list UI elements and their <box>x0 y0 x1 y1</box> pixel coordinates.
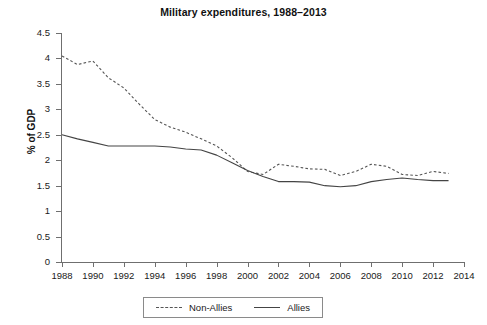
y-tick-mark <box>56 135 61 136</box>
y-tick-label: 1.5 <box>14 180 50 191</box>
y-tick-mark <box>56 33 61 34</box>
x-tick-mark <box>371 262 372 267</box>
y-tick-mark <box>56 237 61 238</box>
y-tick-label: 4.5 <box>14 27 50 38</box>
y-tick-label: 1 <box>14 205 50 216</box>
legend-swatch-dashed-icon <box>156 307 182 308</box>
y-tick-label: 4 <box>14 52 50 63</box>
x-tick-mark <box>186 262 187 267</box>
y-tick-label: 3.5 <box>14 78 50 89</box>
x-tick-mark <box>217 262 218 267</box>
y-tick-label: 2.5 <box>14 129 50 140</box>
y-tick-mark <box>56 186 61 187</box>
x-tick-mark <box>93 262 94 267</box>
y-tick-label: 0.5 <box>14 231 50 242</box>
y-tick-mark <box>56 109 61 110</box>
y-tick-label: 0 <box>14 256 50 267</box>
y-tick-mark <box>56 262 61 263</box>
series-line-allies <box>62 135 449 187</box>
x-tick-mark <box>402 262 403 267</box>
x-tick-mark <box>309 262 310 267</box>
x-tick-mark <box>124 262 125 267</box>
y-tick-mark <box>56 84 61 85</box>
legend-label-non-allies: Non-Allies <box>189 302 232 313</box>
x-tick-mark <box>340 262 341 267</box>
x-axis-line <box>61 262 464 263</box>
series-line-non-allies <box>62 56 449 176</box>
chart-legend: Non-Allies Allies <box>143 297 323 318</box>
legend-item-allies[interactable]: Allies <box>254 302 310 313</box>
y-tick-label: 3 <box>14 103 50 114</box>
chart-container: Military expenditures, 1988–2013 % of GD… <box>0 0 487 325</box>
y-tick-label: 2 <box>14 154 50 165</box>
x-tick-mark <box>278 262 279 267</box>
legend-item-non-allies[interactable]: Non-Allies <box>156 302 232 313</box>
y-tick-mark <box>56 58 61 59</box>
legend-swatch-solid-icon <box>254 307 280 308</box>
x-tick-mark <box>464 262 465 267</box>
x-tick-mark <box>248 262 249 267</box>
y-tick-mark <box>56 211 61 212</box>
plot-area <box>62 33 464 262</box>
chart-title: Military expenditures, 1988–2013 <box>0 6 487 18</box>
y-tick-mark <box>56 160 61 161</box>
x-tick-mark <box>433 262 434 267</box>
x-tick-mark <box>62 262 63 267</box>
x-tick-label: 2014 <box>444 270 484 281</box>
legend-label-allies: Allies <box>287 302 310 313</box>
x-tick-mark <box>155 262 156 267</box>
series-canvas <box>62 33 464 262</box>
